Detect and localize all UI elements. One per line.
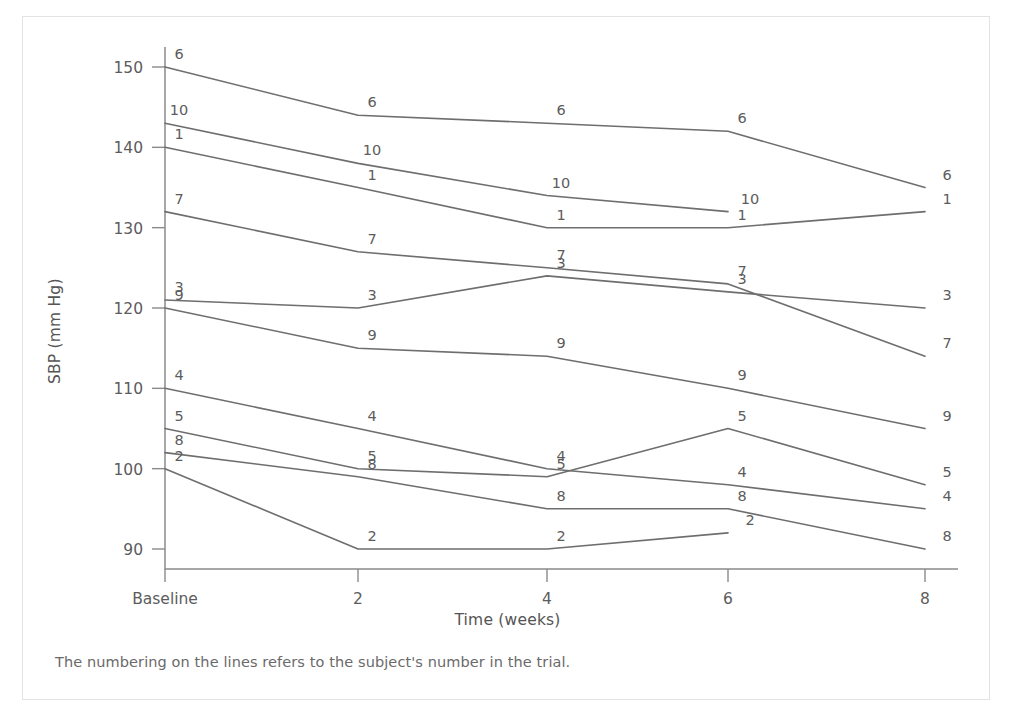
y-axis-title: SBP (mm Hg) xyxy=(46,251,68,411)
series-point-label: 7 xyxy=(174,191,183,207)
series-point-label: 6 xyxy=(737,110,746,126)
y-tick-label: 150 xyxy=(113,59,143,77)
series-point-label: 4 xyxy=(174,367,183,383)
series-point-label: 8 xyxy=(367,456,376,472)
x-axis-title: Time (weeks) xyxy=(0,611,1015,629)
series-line xyxy=(165,308,925,429)
series-point-label: 3 xyxy=(367,287,376,303)
series-point-label: 6 xyxy=(367,94,376,110)
series-point-label: 9 xyxy=(556,335,565,351)
x-tick-label: 4 xyxy=(542,590,552,608)
series-point-label: 1 xyxy=(942,191,951,207)
series-point-label: 1 xyxy=(174,126,183,142)
series-point-label: 5 xyxy=(942,464,951,480)
y-tick-label: 140 xyxy=(113,139,143,157)
series-point-label: 7 xyxy=(942,335,951,351)
series-point-label: 5 xyxy=(556,456,565,472)
series-point-label: 5 xyxy=(737,408,746,424)
series-line xyxy=(165,123,728,211)
series-line xyxy=(165,212,925,357)
series-point-label: 1 xyxy=(367,167,376,183)
series-point-label: 10 xyxy=(741,191,759,207)
series-point-label: 1 xyxy=(737,207,746,223)
series-line xyxy=(165,147,925,227)
series-line xyxy=(165,276,925,308)
series-line xyxy=(165,67,925,188)
series-point-label: 9 xyxy=(737,367,746,383)
series-point-label: 9 xyxy=(367,327,376,343)
series-point-labels: 6666610101010111117777733333999994444455… xyxy=(170,46,952,544)
series-point-label: 8 xyxy=(942,528,951,544)
series-point-label: 9 xyxy=(942,408,951,424)
series-point-label: 8 xyxy=(174,432,183,448)
y-tick-label: 110 xyxy=(113,380,143,398)
series-lines xyxy=(165,67,925,549)
series-point-label: 6 xyxy=(556,102,565,118)
y-tick-label: 120 xyxy=(113,300,143,318)
figure-caption: The numbering on the lines refers to the… xyxy=(55,654,935,670)
x-tick-label: Baseline xyxy=(132,590,198,608)
series-point-label: 2 xyxy=(174,448,183,464)
series-point-label: 3 xyxy=(942,287,951,303)
y-tick-label: 130 xyxy=(113,220,143,238)
series-point-label: 8 xyxy=(737,488,746,504)
x-tick-label: 6 xyxy=(723,590,733,608)
series-point-label: 8 xyxy=(556,488,565,504)
series-point-label: 6 xyxy=(174,46,183,62)
series-point-label: 4 xyxy=(942,488,951,504)
series-point-label: 2 xyxy=(556,528,565,544)
series-point-label: 2 xyxy=(745,512,754,528)
series-point-label: 4 xyxy=(737,464,746,480)
series-point-label: 10 xyxy=(170,102,188,118)
series-point-label: 6 xyxy=(942,167,951,183)
y-tick-label: 100 xyxy=(113,461,143,479)
series-point-label: 7 xyxy=(367,231,376,247)
chart-axes xyxy=(152,47,958,582)
series-line xyxy=(165,388,925,509)
x-axis-tick-labels: Baseline2468 xyxy=(132,590,930,608)
series-point-label: 5 xyxy=(174,408,183,424)
series-point-label: 3 xyxy=(737,271,746,287)
series-point-label: 1 xyxy=(556,207,565,223)
series-line xyxy=(165,453,925,549)
series-point-label: 4 xyxy=(367,408,376,424)
x-tick-label: 8 xyxy=(920,590,930,608)
series-point-label: 10 xyxy=(363,142,381,158)
series-point-label: 2 xyxy=(367,528,376,544)
series-point-label: 3 xyxy=(556,255,565,271)
x-tick-label: 2 xyxy=(353,590,363,608)
series-point-label: 9 xyxy=(174,287,183,303)
y-axis-tick-labels: 90100110120130140150 xyxy=(113,59,143,559)
y-tick-label: 90 xyxy=(123,541,143,559)
series-line xyxy=(165,429,925,485)
series-point-label: 10 xyxy=(552,175,570,191)
